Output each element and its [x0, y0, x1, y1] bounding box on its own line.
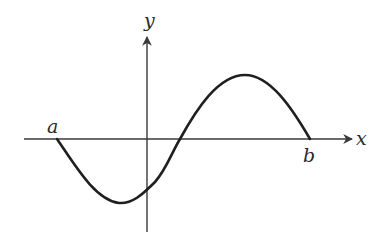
point-b-label: b	[303, 144, 315, 166]
point-a-label: a	[47, 115, 58, 137]
y-axis-label: y	[143, 9, 155, 31]
x-axis-label: x	[356, 127, 367, 149]
function-graph: y x a b	[0, 0, 388, 232]
